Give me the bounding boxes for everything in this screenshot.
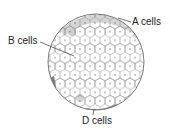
b-cells-label: B cells	[8, 36, 37, 46]
a-cells-label: A cells	[132, 17, 161, 27]
d-cells-label: D cells	[82, 116, 112, 126]
